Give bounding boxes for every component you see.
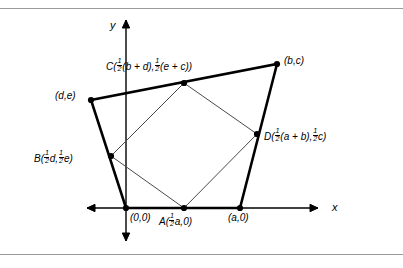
- x-axis-arrow-left: [87, 204, 95, 211]
- top-divider-rule: [0, 8, 403, 9]
- dot-midpoint-A: [181, 205, 187, 211]
- label-A-letter: A: [159, 216, 166, 227]
- label-A-tail: a,0): [175, 216, 192, 227]
- dot-origin: [123, 205, 129, 211]
- y-axis-label: y: [110, 19, 116, 31]
- dot-de: [88, 97, 94, 103]
- fraction-one-half: 12: [155, 58, 160, 73]
- inner-quadrilateral: [111, 83, 257, 208]
- label-midpoint-B: B(12d,12e): [34, 150, 73, 165]
- x-axis-arrow-right: [310, 204, 318, 211]
- y-axis-arrow-up: [122, 20, 129, 28]
- label-origin: (0,0): [130, 213, 151, 223]
- fraction-denominator: 2: [44, 158, 49, 165]
- dot-midpoint-C: [181, 80, 187, 86]
- fraction-denominator: 2: [59, 158, 64, 165]
- dot-midpoint-B: [108, 153, 114, 159]
- label-C-mid: (b + d),: [122, 61, 154, 72]
- fraction-one-half: 12: [44, 150, 49, 165]
- bottom-divider-rule: [0, 254, 403, 255]
- vertex-dots: [88, 61, 280, 211]
- dot-a0: [237, 205, 243, 211]
- label-D-tail: c): [318, 131, 326, 142]
- fraction-one-half: 12: [59, 150, 64, 165]
- label-B-mid: d,: [50, 153, 58, 164]
- label-D-mid: (a + b),: [280, 131, 312, 142]
- label-midpoint-A: A(12a,0): [159, 213, 192, 228]
- label-B-tail: e): [64, 153, 73, 164]
- fraction-one-half: 12: [169, 213, 174, 228]
- fraction-one-half: 12: [313, 128, 318, 143]
- fraction-denominator: 2: [169, 221, 174, 228]
- dot-midpoint-D: [254, 131, 260, 137]
- y-axis-arrow-down: [122, 233, 129, 241]
- label-d-e: (d,e): [55, 91, 76, 101]
- fraction-denominator: 2: [313, 136, 318, 143]
- label-midpoint-D: D(12(a + b),12c): [264, 128, 326, 143]
- x-axis-label: x: [332, 201, 338, 213]
- label-C-tail: (e + c)): [160, 61, 192, 72]
- label-b-c: (b,c): [284, 56, 304, 66]
- label-B-letter: B: [34, 153, 41, 164]
- diagram-canvas: [0, 0, 403, 268]
- label-a-zero: (a,0): [228, 213, 249, 223]
- dot-bc: [274, 61, 280, 67]
- fraction-denominator: 2: [155, 66, 160, 73]
- label-midpoint-C: C(12(b + d),12(e + c)): [106, 58, 192, 73]
- geometry-figure: x y (0,0) (a,0) (b,c) (d,e) A(12a,0) B(1…: [0, 0, 403, 268]
